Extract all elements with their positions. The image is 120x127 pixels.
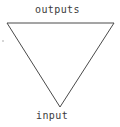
outputs-label: outputs [35,4,80,16]
scan-artifact-speck [2,40,4,42]
input-label: input [36,110,68,122]
diagram-canvas: outputs input [0,0,120,127]
inverted-triangle-shape [0,0,120,127]
triangle-outline [7,23,114,107]
